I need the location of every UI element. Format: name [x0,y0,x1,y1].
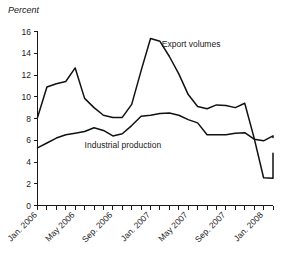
data-series-group [38,39,274,179]
series-label-group: Export volumesIndustrial production [85,39,221,150]
x-tick-label: Jan. 2006 [5,210,39,244]
y-tick-label: 8 [26,114,31,124]
series-label-industrial-production: Industrial production [85,140,162,150]
x-tick-label: Jan. 2007 [118,210,152,244]
y-axis-unit-label: Percent [8,5,40,15]
x-tick-label: Jan. 2008 [232,210,266,244]
y-tick-label: 16 [22,27,32,37]
line-chart: Percent 0246810121416 Jan. 2006May 2006S… [0,0,289,260]
x-axis: Jan. 2006May 2006Sep. 2006Jan. 2007May 2… [5,206,273,245]
x-tick-label: Sep. 2006 [80,210,115,245]
chart-container: Percent 0246810121416 Jan. 2006May 2006S… [0,0,289,260]
y-tick-label: 0 [26,201,31,211]
y-tick-label: 4 [26,157,31,167]
x-tick-label: May 2006 [43,210,77,244]
y-tick-label: 14 [22,48,32,58]
series-label-export-volumes: Export volumes [162,39,221,49]
x-tick-label: May 2007 [156,210,190,244]
y-tick-label: 10 [22,92,32,102]
series-line-export-volumes [38,39,274,179]
y-axis: 0246810121416 [22,27,38,211]
y-tick-label: 6 [26,135,31,145]
y-tick-label: 12 [22,70,32,80]
y-tick-label: 2 [26,179,31,189]
unit-label-group: Percent [8,5,40,15]
x-tick-label: Sep. 2007 [193,210,228,245]
